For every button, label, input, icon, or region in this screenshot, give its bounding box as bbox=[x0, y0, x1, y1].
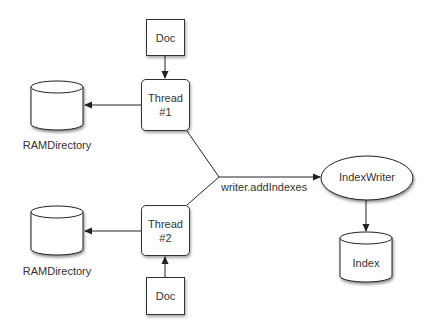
thread-node-1-label: Thread #1 bbox=[148, 91, 183, 119]
doc-node-1: Doc bbox=[146, 19, 185, 56]
ramdirectory-2-cylinder-icon bbox=[31, 206, 83, 255]
thread-node-2: Thread #2 bbox=[141, 205, 190, 256]
doc-node-1-label: Doc bbox=[156, 31, 176, 45]
ramdirectory-2-label: RAMDirectory bbox=[17, 265, 97, 277]
ramdirectory-1-label: RAMDirectory bbox=[17, 139, 97, 151]
merge-edge-label: writer.addIndexes bbox=[221, 181, 307, 193]
edge-threads-merge bbox=[187, 131, 320, 205]
thread-node-2-label: Thread #2 bbox=[148, 217, 183, 245]
indexwriter-label: IndexWriter bbox=[321, 171, 413, 183]
ramdirectory-1-cylinder-icon bbox=[31, 81, 83, 130]
index-label: Index bbox=[340, 257, 392, 269]
doc-node-2: Doc bbox=[146, 277, 185, 315]
diagram-canvas bbox=[0, 0, 431, 335]
thread-node-1: Thread #1 bbox=[141, 79, 190, 131]
doc-node-2-label: Doc bbox=[156, 289, 176, 303]
